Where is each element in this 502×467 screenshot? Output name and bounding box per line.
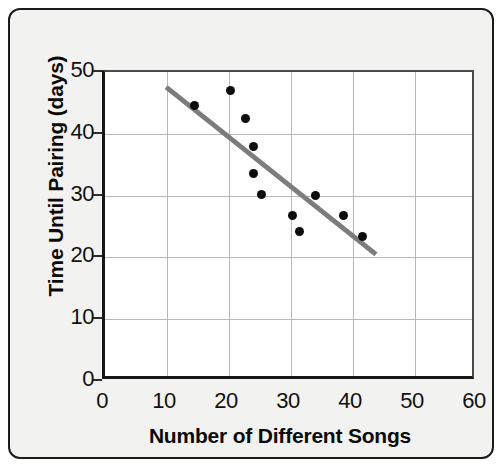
data-point	[288, 211, 297, 220]
x-axis-tick-label: 30	[258, 390, 318, 412]
x-axis-title: Number of Different Songs	[70, 424, 490, 448]
x-axis-tick-label: 40	[320, 390, 380, 412]
data-point	[249, 169, 258, 178]
data-point	[257, 190, 266, 199]
x-axis-tick-label: 20	[196, 390, 256, 412]
y-axis-tick-marks	[93, 70, 102, 379]
data-point	[226, 86, 235, 95]
y-axis-title: Time Until Pairing (days)	[44, 26, 68, 326]
data-point	[190, 101, 199, 110]
x-axis-tick-label: 50	[382, 390, 442, 412]
figure-frame: 01020304050 0102030405060 Time Until Pai…	[8, 8, 494, 459]
data-point	[241, 114, 250, 123]
y-axis-tick-mark	[93, 132, 102, 134]
data-point	[311, 191, 320, 200]
y-axis-tick-mark	[93, 317, 102, 319]
scatter-chart: 01020304050 0102030405060 Time Until Pai…	[10, 10, 494, 459]
data-point	[358, 232, 367, 241]
x-axis-tick-label: 60	[444, 390, 494, 412]
x-axis-tick-labels: 0102030405060	[102, 390, 474, 418]
data-point	[339, 211, 348, 220]
data-point	[249, 142, 258, 151]
y-axis-tick-mark	[93, 194, 102, 196]
x-axis-tick-label: 10	[134, 390, 194, 412]
y-axis-tick-label: 0	[54, 368, 94, 390]
x-axis-tick-label: 0	[72, 390, 132, 412]
data-point	[295, 227, 304, 236]
plot-area	[102, 70, 474, 379]
data-points	[105, 72, 472, 376]
y-axis-tick-mark	[93, 379, 102, 381]
y-axis-tick-mark	[93, 70, 102, 72]
y-axis-tick-mark	[93, 255, 102, 257]
